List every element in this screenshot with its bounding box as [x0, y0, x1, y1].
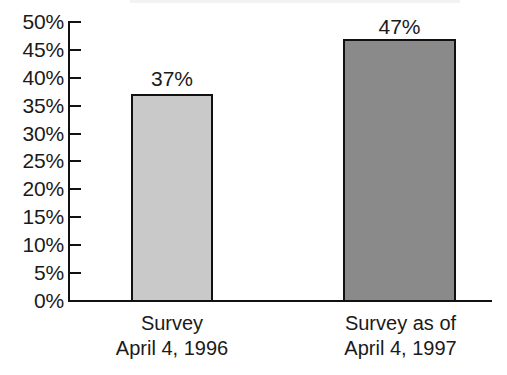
y-tick-label: 5% [2, 262, 64, 283]
y-axis-tick [70, 133, 81, 135]
y-tick-label-group: 50% [0, 11, 64, 32]
category-label-1997: Survey as of April 4, 1997 [313, 311, 488, 361]
y-tick-label: 45% [2, 39, 64, 60]
y-tick-label: 25% [2, 150, 64, 171]
category-label-line-1: Survey [141, 312, 203, 334]
scan-artifact [130, 0, 460, 3]
category-label-line-2: April 4, 1997 [313, 336, 488, 361]
y-axis-line [68, 21, 70, 302]
y-tick-label-group: 40% [0, 67, 64, 88]
bar-value-label: 37% [131, 68, 213, 89]
category-label-1996: Survey April 4, 1996 [92, 311, 252, 361]
category-label-line-2: April 4, 1996 [92, 336, 252, 361]
y-tick-label: 40% [2, 67, 64, 88]
y-tick-label-group: 15% [0, 206, 64, 227]
y-tick-label-group: 25% [0, 150, 64, 171]
y-tick-label: 35% [2, 95, 64, 116]
y-axis-tick [70, 21, 81, 23]
bar-chart: 50% 45% 40% 35% 30% 25% 20% 15% 10% 5% 0… [0, 0, 507, 375]
y-tick-label-group: 30% [0, 123, 64, 144]
bar-survey-1997 [343, 39, 456, 302]
y-tick-label-group: 0% [0, 290, 64, 311]
y-tick-label-group: 20% [0, 178, 64, 199]
y-axis-tick [70, 160, 81, 162]
y-axis-tick [70, 77, 81, 79]
y-tick-label: 15% [2, 206, 64, 227]
category-label-line-1: Survey as of [345, 312, 456, 334]
bar-value-label: 47% [343, 16, 456, 37]
y-tick-label: 20% [2, 178, 64, 199]
y-axis-tick [70, 188, 81, 190]
y-tick-label: 10% [2, 234, 64, 255]
y-tick-label-group: 45% [0, 39, 64, 60]
y-tick-label: 30% [2, 123, 64, 144]
y-tick-label-group: 10% [0, 234, 64, 255]
y-axis-tick [70, 216, 81, 218]
y-tick-label-group: 5% [0, 262, 64, 283]
y-axis-tick [70, 105, 81, 107]
y-axis-tick [70, 244, 81, 246]
y-axis-tick [70, 49, 81, 51]
y-axis-tick [70, 272, 81, 274]
y-tick-label: 50% [2, 11, 64, 32]
y-tick-label: 0% [2, 290, 64, 311]
bar-survey-1996 [131, 94, 213, 302]
y-tick-label-group: 35% [0, 95, 64, 116]
